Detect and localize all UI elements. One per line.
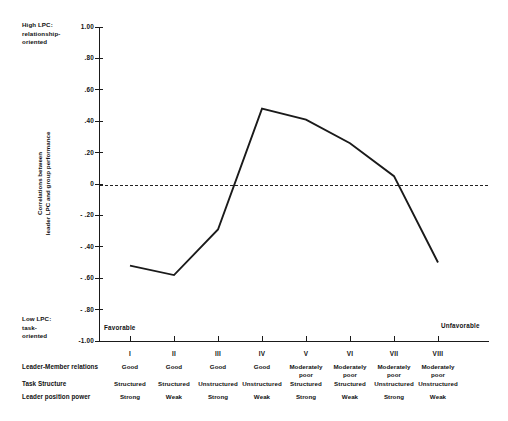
condition-cell: Unstructured [416,380,460,388]
condition-cell: Structured [284,380,328,388]
fiedler-contingency-chart: High LPC: relationship- oriented Low LPC… [0,0,508,421]
y-axis-title-line-2: leader LPC and group performance [44,108,52,258]
y-tick-mark [95,341,103,342]
y-tick-mark [95,215,103,216]
condition-cell: Structured [108,380,152,388]
y-axis-title-line-1: Correlations between [36,108,44,258]
condition-cell: Structured [328,380,372,388]
y-tick-label: 1.00 [81,23,94,30]
category-label-vii: VII [372,350,416,357]
condition-cell: Unstructured [196,380,240,388]
unfavorable-label: Unfavorable [441,322,480,329]
x-axis-line [99,341,489,342]
y-tick-mark [95,89,103,90]
condition-cell: Structured [152,380,196,388]
condition-cell: Weak [328,393,372,401]
x-tick-mark [218,336,219,342]
category-label-ii: II [152,350,196,357]
condition-cell: Weak [416,393,460,401]
y-tick-mark [95,27,103,28]
condition-cell: Good [240,363,284,371]
x-tick-mark [130,336,131,342]
x-tick-mark [394,336,395,342]
category-label-i: I [108,350,152,357]
y-tick-mark [95,152,103,153]
category-label-viii: VIII [416,350,460,357]
x-tick-mark [306,336,307,342]
y-tick-label: - .80 [80,306,94,313]
y-tick-mark [95,309,103,310]
y-tick-label: .80 [85,54,94,61]
high-lpc-annotation: High LPC: relationship- oriented [22,21,60,47]
zero-reference-line [100,185,488,186]
y-tick-mark [95,121,103,122]
y-tick-mark [95,278,103,279]
condition-cell: Unstructured [372,380,416,388]
category-label-vi: VI [328,350,372,357]
y-tick-label: - .20 [80,211,94,218]
low-lpc-annotation: Low LPC: task- oriented [22,315,51,341]
condition-cell: Weak [152,393,196,401]
condition-cell: Good [108,363,152,371]
condition-cell: Good [152,363,196,371]
condition-cell: Strong [196,393,240,401]
condition-cell: Moderately poor [284,363,328,378]
condition-cell: Moderately poor [328,363,372,378]
x-tick-mark [262,336,263,342]
y-tick-mark [95,58,103,59]
y-axis-title: Correlations between leader LPC and grou… [36,108,53,258]
category-label-iv: IV [240,350,284,357]
y-tick-label: - .60 [80,274,94,281]
y-tick-label: .20 [85,149,94,156]
category-label-v: V [284,350,328,357]
correlation-line-series [0,0,508,421]
condition-cell: Strong [372,393,416,401]
condition-cell: Moderately poor [372,363,416,378]
y-tick-label: 0 [90,180,94,187]
condition-cell: Unstructured [240,380,284,388]
x-tick-mark [350,336,351,342]
condition-cell: Weak [240,393,284,401]
category-label-iii: III [196,350,240,357]
condition-cell: Strong [284,393,328,401]
condition-cell: Moderately poor [416,363,460,378]
y-tick-mark [95,246,103,247]
condition-cell: Strong [108,393,152,401]
y-tick-label: -1.00 [78,337,94,344]
y-tick-label: .60 [85,86,94,93]
x-tick-mark [438,336,439,342]
y-tick-label: .40 [85,117,94,124]
favorable-label: Favorable [104,324,136,331]
x-tick-mark [174,336,175,342]
y-tick-label: - .40 [80,243,94,250]
condition-cell: Good [196,363,240,371]
